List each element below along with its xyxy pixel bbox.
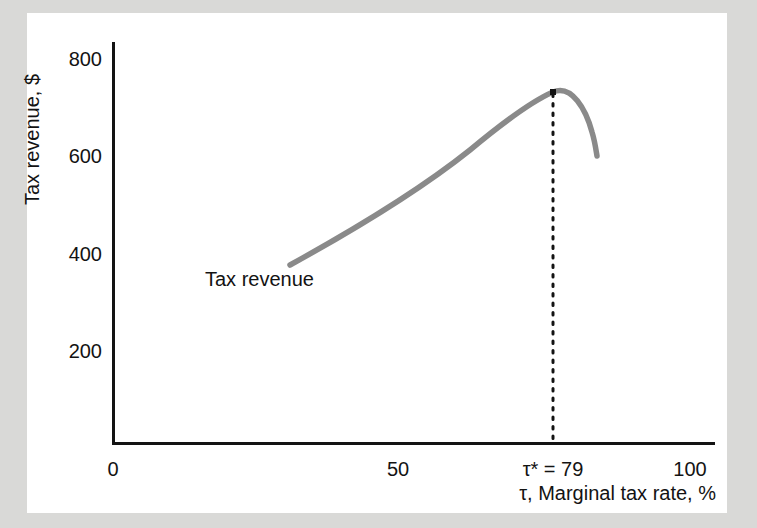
peak-marker-dot <box>550 89 556 95</box>
curve-annotation-label: Tax revenue <box>205 268 314 291</box>
laffer-curve-chart: Tax revenue, $ 800 600 400 200 0 50 τ* =… <box>0 0 757 528</box>
x-tick-100: 100 <box>620 459 757 479</box>
x-tick-tau-star: τ* = 79 <box>483 459 623 479</box>
plot-canvas <box>0 0 757 528</box>
x-tick-50: 50 <box>328 459 468 479</box>
y-axis-title: Tax revenue, $ <box>21 40 44 240</box>
figure-root: Tax revenue, $ 800 600 400 200 0 50 τ* =… <box>0 0 757 528</box>
x-tick-0: 0 <box>43 459 183 479</box>
tax-revenue-curve <box>290 91 597 265</box>
x-axis-title: τ, Marginal tax rate, % <box>330 482 716 505</box>
